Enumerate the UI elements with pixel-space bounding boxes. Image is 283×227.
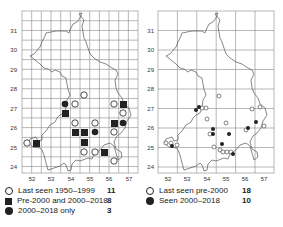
svg-text:29: 29 [10, 67, 17, 73]
svg-text:56: 56 [242, 176, 249, 182]
svg-text:27: 27 [147, 106, 154, 112]
svg-text:28: 28 [147, 86, 154, 92]
legend-count: 8 [107, 196, 111, 206]
filled-circle-icon [5, 207, 13, 215]
svg-text:52: 52 [29, 176, 36, 182]
svg-text:26: 26 [10, 125, 17, 131]
legend-item-last-seen-pre-2000: Last seen pre-2000 18 [146, 186, 228, 196]
svg-text:29: 29 [147, 67, 154, 73]
svg-text:31: 31 [147, 28, 154, 34]
svg-text:26: 26 [147, 125, 154, 131]
svg-text:30: 30 [147, 47, 154, 53]
svg-text:56: 56 [106, 176, 113, 182]
legend-count: 11 [107, 186, 115, 196]
legend-count: 18 [242, 186, 251, 196]
filled-circle-icon [146, 197, 154, 205]
svg-text:31: 31 [10, 28, 17, 34]
left-legend: Last seen 1950–1999 11 Pre-2000 and 2000… [5, 186, 108, 216]
legend-item-2000-2018-only: 2000–2018 only 3 [5, 206, 108, 216]
svg-text:24: 24 [147, 164, 154, 170]
right-map-grid [158, 11, 274, 173]
axis-labels: 3130292827262524 525354555657 3130292827… [10, 28, 268, 182]
svg-text:52: 52 [165, 176, 172, 182]
open-circle-icon [5, 187, 13, 195]
filled-square-icon [5, 198, 12, 205]
svg-text:30: 30 [10, 47, 17, 53]
svg-text:57: 57 [261, 176, 268, 182]
left-map-grid [22, 11, 138, 173]
svg-text:57: 57 [126, 176, 133, 182]
legend-count: 10 [242, 196, 251, 206]
legend-item-seen-2000-2018: Seen 2000–2018 10 [146, 196, 228, 206]
svg-text:55: 55 [87, 176, 94, 182]
open-circle-icon [146, 187, 154, 195]
svg-text:54: 54 [68, 176, 75, 182]
svg-text:53: 53 [184, 176, 191, 182]
svg-text:25: 25 [10, 145, 17, 151]
svg-text:24: 24 [10, 164, 17, 170]
legend-item-pre-2000-and-2000-2018: Pre-2000 and 2000–2018 8 [5, 196, 108, 206]
left-map-markers [24, 92, 127, 164]
right-map-markers [164, 94, 266, 156]
legend-item-last-seen-1950-1999: Last seen 1950–1999 11 [5, 186, 108, 196]
right-map [158, 11, 274, 173]
svg-text:55: 55 [223, 176, 230, 182]
svg-text:28: 28 [10, 86, 17, 92]
left-map [22, 11, 138, 173]
legend-count: 3 [107, 206, 111, 216]
svg-text:54: 54 [204, 176, 211, 182]
right-legend: Last seen pre-2000 18 Seen 2000–2018 10 [146, 186, 228, 206]
svg-text:27: 27 [10, 106, 17, 112]
svg-text:53: 53 [48, 176, 55, 182]
svg-text:25: 25 [147, 145, 154, 151]
